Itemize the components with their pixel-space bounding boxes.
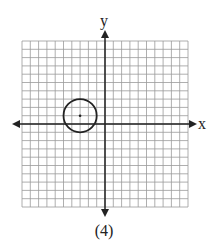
x-axis-left-arrow-icon xyxy=(12,120,20,128)
y-axis-down-arrow-icon xyxy=(101,209,109,217)
figure-caption: (4) xyxy=(0,222,208,240)
y-axis-up-arrow-icon xyxy=(101,30,109,38)
coordinate-plane xyxy=(0,0,208,244)
circle-center-point xyxy=(79,114,82,117)
y-axis-label: y xyxy=(100,12,108,30)
x-axis-right-arrow-icon xyxy=(189,120,197,128)
x-axis-label: x xyxy=(198,115,206,133)
